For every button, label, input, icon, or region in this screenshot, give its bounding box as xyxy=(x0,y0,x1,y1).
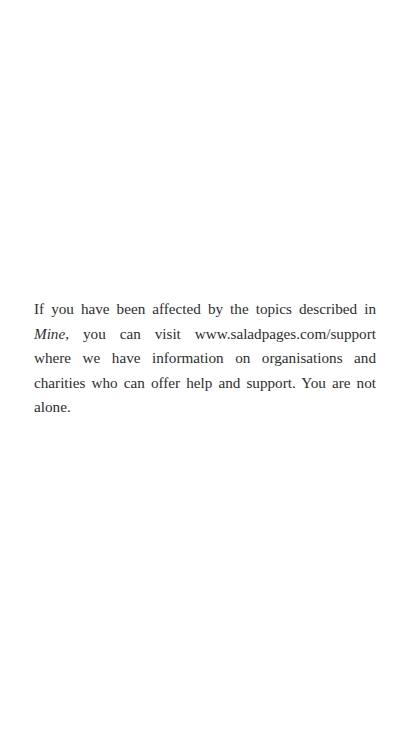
ebook-page: If you have been affected by the topics … xyxy=(0,0,412,750)
notice-text-intro: If you have been affected by the topics … xyxy=(34,300,376,317)
support-notice-paragraph: If you have been affected by the topics … xyxy=(34,297,376,420)
book-title: Mine xyxy=(34,325,65,342)
notice-text-body: , you can visit www.saladpages.com/suppo… xyxy=(34,325,376,416)
